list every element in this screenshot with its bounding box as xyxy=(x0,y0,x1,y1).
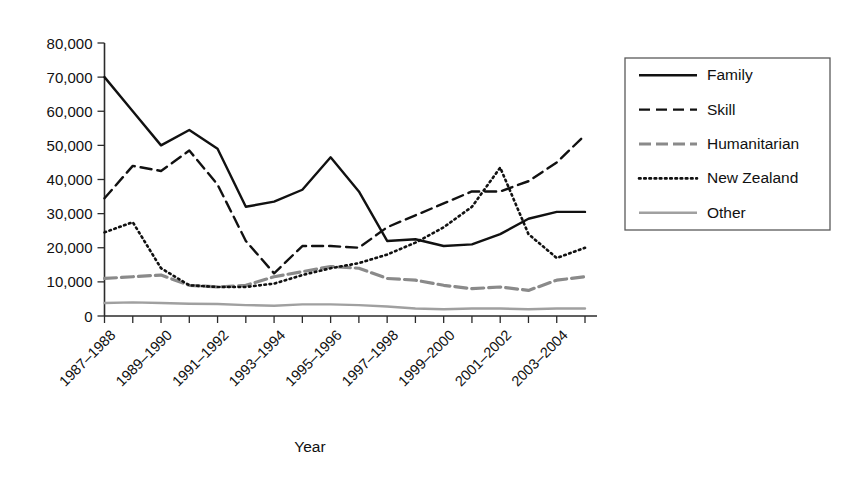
x-axis-group: 1987–19881989–19901991–19921993–19941995… xyxy=(56,316,597,389)
x-axis-title: Year xyxy=(294,438,325,455)
legend-label: New Zealand xyxy=(707,169,798,186)
y-axis-ticks xyxy=(98,43,105,316)
legend-label: Humanitarian xyxy=(707,135,799,152)
chart-figure: 010,00020,00030,00040,00050,00060,00070,… xyxy=(0,0,849,484)
y-tick-label: 30,000 xyxy=(47,205,93,222)
x-tick-label: 1987–1988 xyxy=(56,327,119,390)
x-tick-label: 1989–1990 xyxy=(113,327,176,390)
legend-label: Family xyxy=(707,66,753,83)
series-line-family xyxy=(105,77,586,246)
x-tick-label: 1997–1998 xyxy=(339,327,402,390)
y-tick-label: 0 xyxy=(84,308,92,325)
series-line-other xyxy=(105,302,586,309)
y-tick-label: 10,000 xyxy=(47,273,93,290)
x-tick-label: 1995–1996 xyxy=(282,327,345,390)
series-lines-group xyxy=(105,77,586,309)
legend-label: Other xyxy=(707,204,746,221)
series-line-skill xyxy=(105,135,586,273)
y-axis-group: 010,00020,00030,00040,00050,00060,00070,… xyxy=(47,35,105,325)
x-axis-ticks xyxy=(105,316,586,323)
series-line-humanitarian xyxy=(105,267,586,291)
y-tick-label: 20,000 xyxy=(47,239,93,256)
y-tick-label: 60,000 xyxy=(47,103,93,120)
x-tick-label: 1991–1992 xyxy=(169,327,232,390)
x-tick-label: 1993–1994 xyxy=(226,327,289,390)
legend: FamilySkillHumanitarianNew ZealandOther xyxy=(625,58,830,230)
y-tick-label: 40,000 xyxy=(47,171,93,188)
x-tick-label: 2003–2004 xyxy=(508,327,571,390)
legend-label: Skill xyxy=(707,101,735,118)
y-tick-label: 70,000 xyxy=(47,69,93,86)
x-tick-label: 2001–2002 xyxy=(452,327,515,390)
x-tick-label: 1999–2000 xyxy=(395,327,458,390)
y-tick-label: 50,000 xyxy=(47,137,93,154)
x-axis-tick-labels: 1987–19881989–19901991–19921993–19941995… xyxy=(56,327,571,390)
line-chart-svg: 010,00020,00030,00040,00050,00060,00070,… xyxy=(0,0,849,484)
y-tick-label: 80,000 xyxy=(47,35,93,52)
y-axis-tick-labels: 010,00020,00030,00040,00050,00060,00070,… xyxy=(47,35,93,325)
